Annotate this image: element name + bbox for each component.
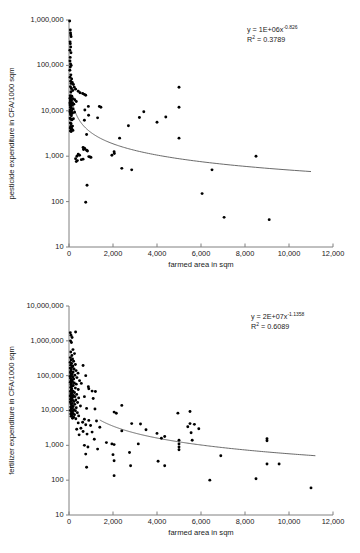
data-point xyxy=(84,374,87,377)
data-point xyxy=(79,427,82,430)
data-point xyxy=(83,109,86,112)
data-point xyxy=(87,105,90,108)
data-point xyxy=(178,439,181,442)
x-axis-title: farmed area in sqm xyxy=(168,260,233,269)
data-point xyxy=(138,116,141,119)
data-point xyxy=(87,419,90,422)
figure-page: 101001,00010,000100,0001,000,00002,0004,… xyxy=(0,0,360,553)
x-axis-tick-label: 6,000 xyxy=(192,517,211,526)
data-point xyxy=(310,486,313,489)
data-point xyxy=(156,121,159,124)
data-point xyxy=(201,192,204,195)
data-point xyxy=(164,116,167,119)
data-point xyxy=(91,390,94,393)
data-point xyxy=(96,116,99,119)
data-point xyxy=(69,66,72,69)
chart-pesticide-expenditure: 101001,00010,000100,0001,000,00002,0004,… xyxy=(0,0,360,278)
data-point xyxy=(113,152,116,155)
data-point xyxy=(163,464,166,467)
data-point xyxy=(75,160,78,163)
y-axis-title: fertilizer expenditure in CFA/1000 sqm xyxy=(7,346,16,475)
data-point xyxy=(178,442,181,445)
data-point-group xyxy=(69,330,313,489)
data-point xyxy=(93,438,96,441)
pesticide-scatter-plot: 101001,00010,000100,0001,000,00002,0004,… xyxy=(0,0,360,278)
data-point xyxy=(77,388,80,391)
data-point xyxy=(85,466,88,469)
data-point xyxy=(120,167,123,170)
data-point xyxy=(74,363,77,366)
data-point xyxy=(85,407,88,410)
y-axis-tick-label: 10,000 xyxy=(41,106,64,115)
data-point xyxy=(86,445,89,448)
x-axis-tick-label: 12,000 xyxy=(322,517,345,526)
r-squared-label: R2 = 0.3789 xyxy=(247,34,285,44)
data-point xyxy=(189,410,192,413)
data-point xyxy=(68,20,71,23)
y-axis-tick-label: 1,000 xyxy=(45,151,64,160)
data-point xyxy=(142,110,145,113)
data-point xyxy=(118,137,121,140)
data-point xyxy=(75,428,78,431)
data-point xyxy=(75,376,78,379)
y-axis-tick-label: 10,000 xyxy=(41,405,64,414)
x-axis-tick-label: 8,000 xyxy=(236,249,255,258)
data-point xyxy=(76,411,79,414)
data-point xyxy=(73,395,76,398)
data-point xyxy=(120,429,123,432)
data-point xyxy=(86,184,89,187)
data-point xyxy=(74,330,77,333)
data-point xyxy=(255,155,258,158)
data-point xyxy=(95,420,98,423)
data-point xyxy=(75,369,78,372)
data-point xyxy=(266,439,269,442)
data-point xyxy=(86,150,89,153)
data-point xyxy=(84,94,87,97)
data-point-group xyxy=(68,20,270,222)
data-point xyxy=(69,45,72,48)
data-point xyxy=(127,124,130,127)
data-point xyxy=(120,404,123,407)
y-axis-tick-label: 10,000,000 xyxy=(27,301,64,310)
data-point xyxy=(71,417,74,420)
r-squared-label: R2 = 0.6089 xyxy=(251,321,289,331)
x-axis-tick-label: 2,000 xyxy=(104,517,123,526)
data-point xyxy=(82,364,85,367)
data-point xyxy=(72,360,75,363)
data-point xyxy=(84,201,87,204)
data-point xyxy=(94,408,97,411)
y-axis-tick-label: 100 xyxy=(51,197,63,206)
data-point xyxy=(70,122,73,125)
data-point xyxy=(178,106,181,109)
data-point xyxy=(69,91,72,94)
data-point xyxy=(197,427,200,430)
x-axis-tick-label: 4,000 xyxy=(148,517,167,526)
x-axis-tick-label: 12,000 xyxy=(322,249,345,258)
data-point xyxy=(77,421,80,424)
data-point xyxy=(84,453,87,456)
data-point xyxy=(70,130,73,133)
data-point xyxy=(81,421,84,424)
y-axis-tick-label: 1,000,000 xyxy=(31,336,64,345)
y-axis-tick-label: 1,000 xyxy=(45,440,64,449)
data-point xyxy=(69,29,72,32)
data-point xyxy=(71,336,74,339)
data-point xyxy=(178,137,181,140)
data-point xyxy=(137,442,140,445)
data-point xyxy=(69,56,72,59)
data-point xyxy=(266,463,269,466)
data-point xyxy=(78,433,81,436)
y-axis-tick-label: 1,000,000 xyxy=(31,15,64,24)
data-point xyxy=(77,414,80,417)
data-point xyxy=(80,158,83,161)
data-point xyxy=(128,451,131,454)
y-axis-tick-label: 100,000 xyxy=(37,60,64,69)
data-point xyxy=(189,422,192,425)
data-point xyxy=(77,372,80,375)
data-point xyxy=(193,423,196,426)
data-point xyxy=(79,405,82,408)
data-point xyxy=(80,382,83,385)
data-point xyxy=(83,444,86,447)
x-axis-tick-label: 4,000 xyxy=(148,249,167,258)
data-point xyxy=(87,387,90,390)
